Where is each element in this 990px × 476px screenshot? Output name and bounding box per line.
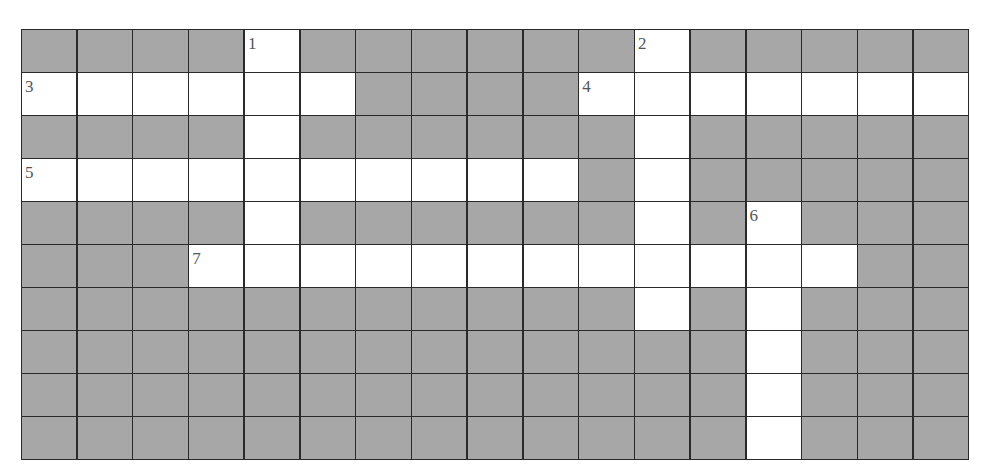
open-cell[interactable] [301, 245, 355, 287]
blocked-cell [78, 202, 132, 244]
open-cell[interactable] [635, 159, 689, 201]
blocked-cell [468, 73, 522, 115]
blocked-cell [133, 202, 187, 244]
blocked-cell [189, 417, 243, 459]
open-cell[interactable] [914, 73, 968, 115]
blocked-cell [301, 374, 355, 416]
blocked-cell [524, 30, 578, 72]
open-cell[interactable] [747, 417, 801, 459]
blocked-cell [747, 159, 801, 201]
open-cell[interactable] [301, 73, 355, 115]
blocked-cell [245, 288, 299, 330]
open-cell[interactable] [635, 202, 689, 244]
blocked-cell [802, 331, 856, 373]
blocked-cell [635, 417, 689, 459]
blocked-cell [468, 30, 522, 72]
blocked-cell [802, 159, 856, 201]
open-cell[interactable] [747, 331, 801, 373]
open-cell[interactable] [468, 159, 522, 201]
blocked-cell [468, 116, 522, 158]
blocked-cell [579, 374, 633, 416]
blocked-cell [858, 245, 912, 287]
blocked-cell [356, 417, 410, 459]
open-cell[interactable] [245, 245, 299, 287]
blocked-cell [22, 30, 76, 72]
blocked-cell [78, 417, 132, 459]
open-cell[interactable] [635, 245, 689, 287]
blocked-cell [22, 202, 76, 244]
blocked-cell [914, 245, 968, 287]
blocked-cell [301, 116, 355, 158]
blocked-cell [579, 288, 633, 330]
blocked-cell [468, 417, 522, 459]
open-cell[interactable] [691, 245, 745, 287]
open-cell[interactable] [133, 73, 187, 115]
open-cell[interactable] [579, 245, 633, 287]
open-cell[interactable] [301, 159, 355, 201]
open-cell[interactable] [245, 116, 299, 158]
open-cell[interactable]: 2 [635, 30, 689, 72]
clue-number: 4 [582, 78, 591, 95]
blocked-cell [691, 417, 745, 459]
blocked-cell [858, 331, 912, 373]
blocked-cell [133, 288, 187, 330]
blocked-cell [635, 374, 689, 416]
open-cell[interactable] [468, 245, 522, 287]
open-cell[interactable] [245, 159, 299, 201]
blocked-cell [245, 374, 299, 416]
open-cell[interactable] [747, 374, 801, 416]
open-cell[interactable] [133, 159, 187, 201]
blocked-cell [412, 202, 466, 244]
blocked-cell [524, 417, 578, 459]
open-cell[interactable] [245, 202, 299, 244]
blocked-cell [301, 417, 355, 459]
clue-number: 7 [192, 250, 201, 267]
blocked-cell [858, 417, 912, 459]
blocked-cell [914, 374, 968, 416]
open-cell[interactable] [747, 288, 801, 330]
open-cell[interactable] [245, 73, 299, 115]
open-cell[interactable]: 3 [22, 73, 76, 115]
open-cell[interactable] [802, 73, 856, 115]
blocked-cell [691, 159, 745, 201]
open-cell[interactable]: 5 [22, 159, 76, 201]
blocked-cell [22, 374, 76, 416]
blocked-cell [914, 331, 968, 373]
open-cell[interactable]: 4 [579, 73, 633, 115]
open-cell[interactable] [858, 73, 912, 115]
open-cell[interactable] [635, 288, 689, 330]
open-cell[interactable] [691, 73, 745, 115]
blocked-cell [133, 374, 187, 416]
blocked-cell [524, 331, 578, 373]
blocked-cell [579, 30, 633, 72]
open-cell[interactable]: 7 [189, 245, 243, 287]
open-cell[interactable] [747, 73, 801, 115]
open-cell[interactable] [356, 245, 410, 287]
blocked-cell [356, 374, 410, 416]
blocked-cell [245, 417, 299, 459]
open-cell[interactable] [747, 245, 801, 287]
blocked-cell [301, 288, 355, 330]
blocked-cell [524, 374, 578, 416]
open-cell[interactable]: 1 [245, 30, 299, 72]
open-cell[interactable] [78, 159, 132, 201]
blocked-cell [858, 30, 912, 72]
open-cell[interactable] [78, 73, 132, 115]
open-cell[interactable] [635, 116, 689, 158]
blocked-cell [189, 374, 243, 416]
open-cell[interactable] [412, 245, 466, 287]
open-cell[interactable] [635, 73, 689, 115]
open-cell[interactable] [189, 159, 243, 201]
open-cell[interactable] [802, 245, 856, 287]
blocked-cell [412, 288, 466, 330]
blocked-cell [468, 331, 522, 373]
blocked-cell [579, 417, 633, 459]
open-cell[interactable] [189, 73, 243, 115]
open-cell[interactable] [524, 245, 578, 287]
open-cell[interactable] [412, 159, 466, 201]
blocked-cell [412, 374, 466, 416]
open-cell[interactable]: 6 [747, 202, 801, 244]
open-cell[interactable] [524, 159, 578, 201]
open-cell[interactable] [356, 159, 410, 201]
blocked-cell [22, 417, 76, 459]
